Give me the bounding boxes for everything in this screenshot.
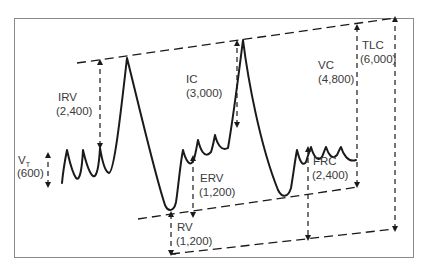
svg-text:(2,400): (2,400) — [56, 105, 93, 117]
svg-text:TLC: TLC — [362, 39, 384, 51]
svg-text:ERV: ERV — [200, 172, 224, 184]
svg-text:(600): (600) — [17, 167, 44, 179]
svg-text:(4,800): (4,800) — [318, 73, 355, 85]
svg-text:VC: VC — [318, 59, 334, 71]
frc-label: FRC (2,400) — [312, 155, 349, 181]
spirogram-trace — [62, 40, 356, 210]
svg-text:VT: VT — [18, 154, 31, 168]
tlc-reference-line — [77, 18, 395, 63]
tlc-label: TLC (6,000) — [360, 39, 397, 65]
svg-text:RV: RV — [177, 221, 193, 233]
svg-text:IC: IC — [186, 73, 198, 85]
rv-label: RV (1,200) — [176, 221, 213, 247]
vt-label: VT (600) — [17, 154, 44, 179]
lung-volume-diagram: IRV (2,400) VT (600) IC (3,000) ERV (1,2… — [0, 0, 425, 274]
svg-text:(3,000): (3,000) — [186, 87, 223, 99]
svg-text:(1,200): (1,200) — [176, 235, 213, 247]
irv-label: IRV (2,400) — [56, 91, 93, 117]
svg-text:FRC: FRC — [313, 155, 337, 167]
svg-text:(2,400): (2,400) — [312, 169, 349, 181]
erv-label: ERV (1,200) — [199, 172, 236, 198]
ic-label: IC (3,000) — [186, 73, 223, 99]
svg-text:IRV: IRV — [58, 91, 77, 103]
svg-text:(1,200): (1,200) — [199, 186, 236, 198]
svg-text:(6,000): (6,000) — [360, 53, 397, 65]
vc-label: VC (4,800) — [318, 59, 355, 85]
